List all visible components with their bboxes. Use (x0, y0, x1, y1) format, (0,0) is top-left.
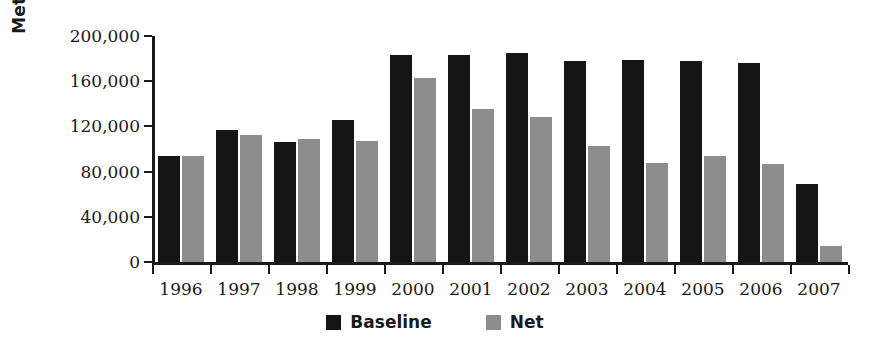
x-tick-label: 1998 (275, 279, 318, 299)
x-tick-label: 1997 (217, 279, 260, 299)
x-tick-label: 2001 (449, 279, 492, 299)
y-tick-label: 0 (129, 252, 140, 272)
x-tick-mark (732, 265, 734, 274)
x-tick-mark (384, 265, 386, 274)
bar-baseline-1999 (332, 120, 354, 262)
bar-net-2000 (414, 78, 436, 262)
x-tick-label: 2002 (507, 279, 550, 299)
bar-net-2005 (704, 156, 726, 262)
legend-item-net[interactable]: Net (486, 312, 544, 332)
y-tick-label: 80,000 (81, 162, 140, 182)
x-tick-mark (326, 265, 328, 274)
y-tick-label: 200,000 (70, 26, 140, 46)
bar-net-2003 (588, 146, 610, 262)
bar-net-2006 (762, 164, 784, 262)
x-tick-mark (210, 265, 212, 274)
x-tick-label: 2004 (623, 279, 666, 299)
x-tick-label: 1999 (333, 279, 376, 299)
y-axis-title-text: Metric Tons CO (9, 0, 29, 34)
chart-legend: BaselineNet (0, 312, 870, 332)
bar-baseline-2004 (622, 60, 644, 262)
x-tick-label: 2005 (681, 279, 724, 299)
bar-baseline-2000 (390, 55, 412, 262)
bar-net-1999 (356, 141, 378, 262)
bar-baseline-2001 (448, 55, 470, 262)
legend-label: Net (510, 312, 544, 332)
y-tick-mark (144, 35, 152, 37)
legend-swatch-net-icon (486, 315, 501, 330)
x-tick-label: 2007 (797, 279, 840, 299)
bar-net-2004 (646, 163, 668, 262)
y-axis-line (152, 36, 155, 262)
bar-baseline-1996 (158, 156, 180, 262)
bar-net-2007 (820, 246, 842, 262)
bar-baseline-2006 (738, 63, 760, 262)
x-tick-mark (790, 265, 792, 274)
y-tick-label: 160,000 (70, 71, 140, 91)
plot-area: 040,00080,000120,000160,000200,000 19961… (152, 36, 848, 262)
bar-net-2002 (530, 117, 552, 262)
x-tick-label: 1996 (159, 279, 202, 299)
bar-baseline-2002 (506, 53, 528, 262)
x-tick-label: 2006 (739, 279, 782, 299)
y-tick-mark (144, 125, 152, 127)
bar-baseline-1998 (274, 142, 296, 262)
x-tick-mark (442, 265, 444, 274)
x-tick-mark (674, 265, 676, 274)
y-tick-mark (144, 171, 152, 173)
legend-swatch-baseline-icon (326, 315, 341, 330)
x-tick-label: 2000 (391, 279, 434, 299)
bar-baseline-2003 (564, 61, 586, 262)
legend-label: Baseline (350, 312, 431, 332)
bar-baseline-2007 (796, 184, 818, 262)
x-tick-mark (616, 265, 618, 274)
bar-net-1997 (240, 135, 262, 262)
x-tick-mark (500, 265, 502, 274)
x-tick-mark (268, 265, 270, 274)
y-axis-title: Metric Tons CO2 (2, 0, 36, 70)
y-tick-mark (144, 80, 152, 82)
bar-net-1996 (182, 156, 204, 262)
x-tick-label: 2003 (565, 279, 608, 299)
bar-net-1998 (298, 139, 320, 262)
x-tick-mark (848, 265, 850, 274)
x-tick-mark (558, 265, 560, 274)
bar-net-2001 (472, 109, 494, 262)
bar-baseline-2005 (680, 61, 702, 262)
chart-figure: Metric Tons CO2 040,00080,000120,000160,… (0, 0, 870, 358)
y-tick-mark (144, 261, 152, 263)
x-tick-mark (152, 265, 154, 274)
y-tick-label: 120,000 (70, 116, 140, 136)
legend-item-baseline[interactable]: Baseline (326, 312, 431, 332)
bar-baseline-1997 (216, 130, 238, 262)
y-tick-mark (144, 216, 152, 218)
y-tick-label: 40,000 (81, 207, 140, 227)
